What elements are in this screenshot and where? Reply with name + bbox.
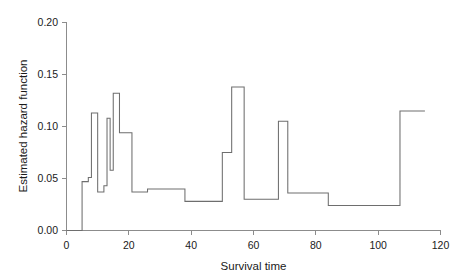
y-tick-label-000: 0.00 — [38, 224, 59, 236]
y-axis-title: Estimated hazard function — [17, 60, 29, 193]
y-tick-label-010: 0.10 — [38, 120, 59, 132]
x-axis-title: Survival time — [221, 260, 287, 272]
x-tick-label-40: 40 — [185, 239, 197, 251]
x-tick-label-0: 0 — [64, 239, 70, 251]
x-tick-label-80: 80 — [310, 239, 322, 251]
y-tick-label-005: 0.05 — [38, 172, 59, 184]
hazard-step-line — [67, 87, 425, 231]
x-tick-label-120: 120 — [432, 239, 450, 251]
chart-plot-area: 0.20 0.15 0.10 0.05 0.00 0 20 40 60 80 1… — [0, 0, 474, 280]
x-tick-label-20: 20 — [123, 239, 135, 251]
x-tick-label-60: 60 — [248, 239, 260, 251]
y-axis-ticks — [62, 23, 67, 231]
y-tick-label-020: 0.20 — [38, 16, 59, 28]
hazard-function-chart: 0.20 0.15 0.10 0.05 0.00 0 20 40 60 80 1… — [0, 0, 474, 280]
x-axis-ticks — [67, 231, 441, 236]
y-tick-label-015: 0.15 — [38, 68, 59, 80]
x-tick-label-100: 100 — [369, 239, 387, 251]
